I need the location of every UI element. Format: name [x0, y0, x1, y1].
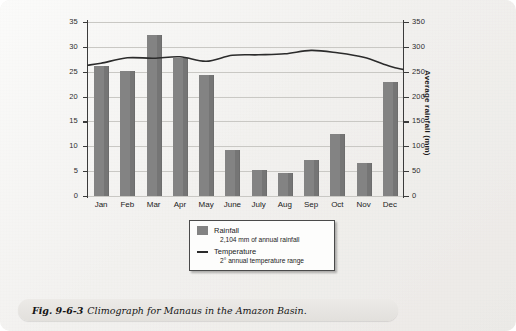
right-axis-tick-label: 100 — [412, 141, 425, 150]
right-axis-tick — [404, 72, 409, 73]
month-label: Dec — [374, 200, 406, 209]
right-axis-tick-label: 300 — [412, 42, 425, 51]
right-axis-tick — [404, 47, 409, 48]
right-axis-tick — [404, 97, 409, 98]
left-axis-tick-label: 25 — [56, 67, 78, 76]
right-axis-tick-label: 50 — [412, 166, 421, 175]
plot-area — [88, 22, 403, 196]
legend-rainfall-note: 2,104 mm of annual rainfall — [220, 236, 327, 243]
legend-row-rainfall: Rainfall — [197, 226, 327, 235]
gridline — [88, 196, 403, 197]
left-axis-tick-label: 5 — [56, 166, 78, 175]
figure-page: Average temperature (°C) Average rainfal… — [0, 0, 516, 331]
legend-temperature-label: Temperature — [214, 247, 256, 256]
left-axis-tick-label: 15 — [56, 116, 78, 125]
temperature-line — [88, 22, 403, 196]
right-axis-tick — [404, 171, 409, 172]
right-axis-tick-label: 0 — [412, 191, 416, 200]
legend-rainfall-label: Rainfall — [214, 226, 239, 235]
left-axis-tick-label: 10 — [56, 141, 78, 150]
chart-legend: Rainfall 2,104 mm of annual rainfall Tem… — [189, 220, 335, 271]
right-axis-tick-label: 250 — [412, 67, 425, 76]
right-axis-tick — [404, 121, 409, 122]
right-axis-tick — [404, 22, 409, 23]
figure-caption: Fig. 9-6-3 Climograph for Manaus in the … — [18, 299, 398, 321]
climograph-chart: Average temperature (°C) Average rainfal… — [0, 0, 516, 215]
temperature-line-icon — [197, 251, 208, 253]
left-axis-tick-label: 30 — [56, 42, 78, 51]
left-axis-tick-label: 35 — [56, 17, 78, 26]
rainfall-swatch-icon — [197, 226, 208, 235]
left-axis-tick-label: 20 — [56, 92, 78, 101]
right-axis-tick-label: 350 — [412, 17, 425, 26]
right-axis-tick — [404, 146, 409, 147]
legend-row-temperature: Temperature — [197, 247, 327, 256]
left-axis-tick-label: 0 — [56, 191, 78, 200]
right-axis-tick-label: 200 — [412, 92, 425, 101]
caption-figure-text: Climograph for Manaus in the Amazon Basi… — [87, 305, 306, 316]
right-axis-tick — [404, 196, 409, 197]
caption-figure-number: Fig. 9-6-3 — [32, 305, 83, 316]
right-axis-tick-label: 150 — [412, 116, 425, 125]
legend-temperature-note: 2° annual temperature range — [220, 257, 327, 264]
